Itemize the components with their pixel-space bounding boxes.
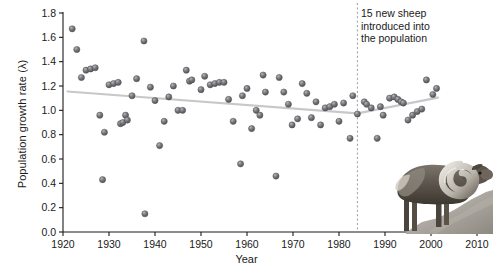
svg-text:1930: 1930 xyxy=(97,238,121,250)
svg-text:1980: 1980 xyxy=(327,238,351,250)
bighorn-sheep-photo xyxy=(376,144,493,234)
svg-text:0.4: 0.4 xyxy=(41,177,56,189)
x-axis-label: Year xyxy=(0,253,493,265)
svg-text:1.2: 1.2 xyxy=(41,80,56,92)
svg-text:1.6: 1.6 xyxy=(41,31,56,43)
svg-text:1970: 1970 xyxy=(281,238,305,250)
y-axis-label: Population growth rate (λ) xyxy=(16,44,28,204)
svg-text:0.0: 0.0 xyxy=(41,226,56,238)
svg-text:0.8: 0.8 xyxy=(41,128,56,140)
population-growth-rate-figure: 0.00.20.40.60.81.01.21.41.61.81920193019… xyxy=(0,0,493,273)
bighorn-sheep-illustration xyxy=(376,144,493,234)
annotation-line-2: introduced into xyxy=(361,20,481,33)
svg-text:0.6: 0.6 xyxy=(41,153,56,165)
intervention-annotation: 15 new sheep introduced into the populat… xyxy=(361,7,481,45)
svg-text:2010: 2010 xyxy=(465,238,489,250)
svg-text:0.2: 0.2 xyxy=(41,201,56,213)
svg-text:1.4: 1.4 xyxy=(41,55,56,67)
svg-text:1940: 1940 xyxy=(143,238,167,250)
svg-text:1.0: 1.0 xyxy=(41,104,56,116)
trend-lines xyxy=(68,91,438,113)
annotation-line-3: the population xyxy=(361,32,481,45)
svg-text:1960: 1960 xyxy=(235,238,259,250)
svg-text:1950: 1950 xyxy=(189,238,213,250)
svg-text:2000: 2000 xyxy=(419,238,443,250)
svg-text:1990: 1990 xyxy=(373,238,397,250)
annotation-line-1: 15 new sheep xyxy=(361,7,481,20)
svg-text:1.8: 1.8 xyxy=(41,7,56,19)
svg-text:1920: 1920 xyxy=(51,238,75,250)
